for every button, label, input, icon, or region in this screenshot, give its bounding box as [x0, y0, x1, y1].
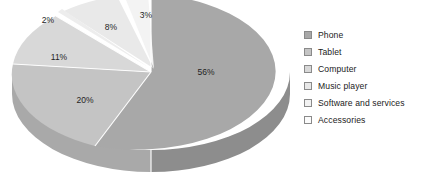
legend-label: Phone: [318, 30, 343, 40]
legend-swatch-icon: [304, 99, 312, 107]
legend-label: Music player: [318, 81, 367, 91]
legend-item-software-and-services[interactable]: Software and services: [304, 94, 435, 111]
legend-label: Accessories: [318, 115, 365, 125]
legend-swatch-icon: [304, 31, 312, 39]
legend-swatch-icon: [304, 116, 312, 124]
data-label-phone: 56%: [197, 67, 214, 77]
data-label-software: 3%: [140, 10, 153, 20]
legend-item-music-player[interactable]: Music player: [304, 77, 435, 94]
data-label-computer: 11%: [51, 52, 68, 62]
legend-label: Computer: [318, 64, 357, 74]
data-label-tablet: 20%: [76, 95, 93, 105]
pie-chart-figure: 56% 20% 11% 8% 3% 2% Phone Tablet Comput…: [0, 0, 435, 186]
legend-item-phone[interactable]: Phone: [304, 26, 435, 43]
chart-legend: Phone Tablet Computer Music player Softw…: [304, 26, 435, 128]
legend-label: Tablet: [318, 47, 342, 57]
pie-svg: 56% 20% 11% 8% 3% 2%: [0, 0, 300, 186]
legend-swatch-icon: [304, 48, 312, 56]
data-label-accessories: 2%: [42, 15, 55, 25]
pie-chart-graphic: 56% 20% 11% 8% 3% 2%: [0, 0, 300, 186]
legend-item-computer[interactable]: Computer: [304, 60, 435, 77]
legend-swatch-icon: [304, 82, 312, 90]
data-label-music-player: 8%: [105, 22, 118, 32]
legend-label: Software and services: [318, 98, 405, 108]
legend-item-accessories[interactable]: Accessories: [304, 111, 435, 128]
legend-item-tablet[interactable]: Tablet: [304, 43, 435, 60]
legend-swatch-icon: [304, 65, 312, 73]
